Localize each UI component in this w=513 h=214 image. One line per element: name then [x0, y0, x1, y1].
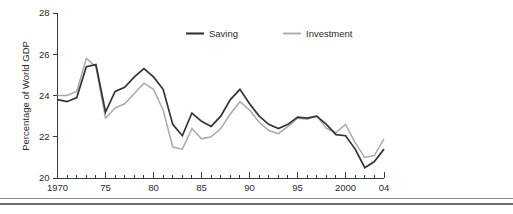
x-axis-tick-label: 75 — [100, 182, 111, 193]
x-axis-tick-label: 95 — [292, 182, 303, 193]
y-axis: 2022242628 Percentage of World GDP — [20, 7, 58, 183]
x-axis-tick-label: 1970 — [47, 182, 68, 193]
figure-container: 2022242628 Percentage of World GDP 19707… — [0, 0, 513, 214]
chart-legend: SavingInvestment — [186, 28, 353, 39]
y-axis-tick-label: 22 — [39, 131, 50, 142]
legend-label-investment: Investment — [306, 28, 353, 39]
x-axis-tick-label: 2000 — [335, 182, 356, 193]
footer-divider-bottom — [0, 203, 513, 205]
x-axis-tick-label: 90 — [244, 182, 255, 193]
footer-divider-top — [0, 198, 513, 199]
y-axis-ticks — [53, 13, 58, 178]
y-axis-tick-label: 28 — [39, 7, 50, 18]
x-axis-tick-label: 85 — [196, 182, 207, 193]
saving-investment-line-chart: 2022242628 Percentage of World GDP 19707… — [0, 0, 513, 214]
x-axis-tick-label: 04 — [379, 182, 390, 193]
y-axis-tick-label: 26 — [39, 49, 50, 60]
y-axis-tick-label: 24 — [39, 90, 50, 101]
data-series-group — [58, 58, 385, 167]
y-axis-title: Percentage of World GDP — [20, 41, 31, 151]
y-axis-tick-labels: 2022242628 — [39, 7, 50, 183]
series-line-investment — [58, 58, 385, 157]
x-axis: 19707580859095200004 — [47, 172, 389, 194]
legend-label-saving: Saving — [209, 28, 238, 39]
x-axis-tick-label: 80 — [148, 182, 159, 193]
x-axis-tick-labels: 19707580859095200004 — [47, 182, 389, 193]
x-axis-minor-ticks — [67, 175, 374, 179]
